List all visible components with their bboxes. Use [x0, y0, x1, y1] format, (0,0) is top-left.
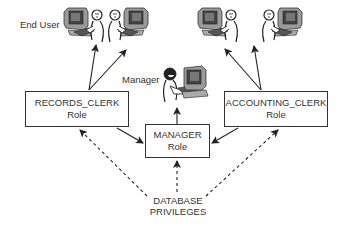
role-name: RECORDS_CLERK	[26, 97, 128, 109]
records-clerk-role-box: RECORDS_CLERK Role	[25, 91, 129, 127]
end-user-label: End User	[20, 19, 60, 30]
privileges-line2: PRIVILEGES	[137, 206, 219, 217]
manager-workstation-icon	[164, 66, 208, 102]
accounting-clerk-role-box: ACCOUNTING_CLERK Role	[224, 91, 328, 127]
manager-label: Manager	[122, 74, 160, 85]
end-user-workstation-icon	[109, 8, 148, 42]
role-suffix: Role	[146, 141, 209, 153]
database-privileges-label: DATABASE PRIVILEGES	[137, 195, 219, 217]
role-suffix: Role	[225, 109, 327, 121]
role-name: MANAGER	[146, 129, 209, 141]
role-name: ACCOUNTING_CLERK	[225, 97, 327, 109]
end-user-workstation-icon	[263, 8, 302, 42]
edge-records-to-manager	[117, 128, 143, 143]
role-suffix: Role	[26, 109, 128, 121]
privileges-line1: DATABASE	[137, 195, 219, 206]
manager-role-box: MANAGER Role	[145, 124, 210, 158]
edge-accounting-to-manager	[212, 128, 238, 143]
end-user-workstation-icon	[64, 8, 103, 42]
end-user-workstation-icon	[198, 8, 237, 42]
